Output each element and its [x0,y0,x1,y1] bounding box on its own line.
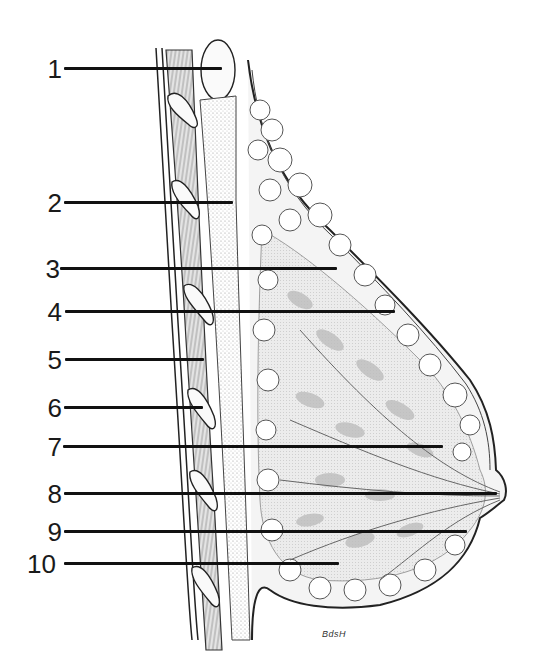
artist-signature: BdsH [322,629,346,639]
leader-line [64,406,203,409]
label-number: 10 [4,551,56,577]
label-number: 1 [10,56,62,82]
leader-line [60,267,337,270]
leader-line [64,201,233,204]
label-number: 9 [10,519,62,545]
label-number: 6 [10,395,62,421]
label-number: 2 [10,190,62,216]
breast-anatomy-diagram: 1 2 3 4 5 6 7 8 9 10 BdsH [0,0,535,669]
label-number: 8 [10,481,62,507]
leader-line [64,492,497,495]
label-number: 4 [10,299,62,325]
label-number: 7 [10,434,62,460]
anatomy-illustration [0,0,535,669]
leader-line [63,445,443,448]
label-number: 5 [10,347,62,373]
leader-line [64,562,339,565]
label-number: 3 [8,256,60,282]
leader-line [65,310,395,313]
leader-line [64,530,467,533]
leader-line [64,67,222,70]
leader-line [65,358,204,361]
